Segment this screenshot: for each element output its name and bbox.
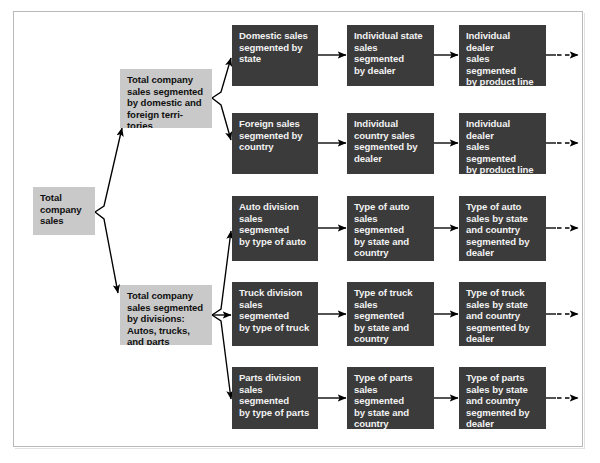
node-label-line: and country	[466, 224, 540, 236]
node-label-line: state	[239, 53, 312, 65]
node-label-line: Type of auto	[466, 201, 540, 213]
node-territories[interactable]: Total companysales segmentedby domestic …	[120, 69, 212, 128]
node-label-line: dealer	[466, 333, 540, 345]
node-label-line: Individual	[354, 118, 428, 130]
node-label-line: sales segmented	[239, 299, 312, 322]
node-label-line: by state and	[354, 407, 428, 419]
node-label: Type of trucksales by stateand countryse…	[466, 287, 540, 345]
node-label-line: by type of auto	[239, 236, 312, 248]
node-label-line: Type of truck	[466, 287, 540, 299]
node-label: Domestic salessegmented bystate	[239, 30, 312, 65]
node-label-line: sales segmented	[466, 141, 540, 164]
node-label-line: Total company	[127, 290, 206, 302]
node-label-line: and country	[466, 395, 540, 407]
node-label-line: segmented by	[466, 407, 540, 419]
node-label: Total companysales segmentedby divisions…	[127, 290, 206, 345]
node-label-line: Truck division	[239, 287, 312, 299]
node-label-line: dealer	[466, 247, 540, 259]
node-label-line: sales segmented	[354, 384, 428, 407]
node-label-line: country sales	[354, 130, 428, 142]
node-label: Individual statesales segmentedby dealer	[354, 30, 428, 76]
node-type-of-auto-sales-by-dealer[interactable]: Type of autosales by stateand countryseg…	[459, 196, 546, 261]
node-label-line: sales segmented	[466, 53, 540, 76]
node-individual-dealer-sales-by-product-line-domestic[interactable]: Individual dealersales segmentedby produ…	[459, 25, 546, 86]
node-label-line: Foreign sales	[239, 118, 312, 130]
node-label-line: Individual dealer	[466, 118, 540, 141]
node-individual-state-sales-by-dealer[interactable]: Individual statesales segmentedby dealer	[347, 25, 434, 86]
node-label-line: by type of truck	[239, 322, 312, 334]
node-label-line: Type of parts	[354, 372, 428, 384]
node-type-of-truck-sales-by-dealer[interactable]: Type of trucksales by stateand countryse…	[459, 282, 546, 346]
node-label: Totalcompanysales	[40, 192, 89, 227]
node-label-line: segmented by	[354, 141, 428, 153]
node-label: Type of trucksales segmentedby state and…	[354, 287, 428, 345]
node-label-line: sales segmented	[239, 213, 312, 236]
node-label-line: country	[354, 333, 428, 345]
node-divisions[interactable]: Total companysales segmentedby divisions…	[120, 285, 212, 345]
node-total-company-sales[interactable]: Totalcompanysales	[33, 187, 95, 235]
node-label: Type of partssales by stateand countryse…	[466, 372, 540, 429]
node-label-line: tories	[127, 120, 206, 128]
node-label-line: and country	[466, 310, 540, 322]
node-truck-division-sales-by-type[interactable]: Truck divisionsales segmentedby type of …	[232, 282, 318, 346]
node-label-line: sales segmented	[354, 42, 428, 65]
node-foreign-sales-by-country[interactable]: Foreign salessegmented bycountry	[232, 113, 318, 174]
node-label-line: by product line	[466, 76, 540, 86]
node-label: Individual dealersales segmentedby produ…	[466, 30, 540, 86]
node-label-line: Type of parts	[466, 372, 540, 384]
node-parts-division-sales-by-type[interactable]: Parts divisionsales segmentedby type of …	[232, 367, 318, 429]
node-label-line: Auto division	[239, 201, 312, 213]
node-label-line: Total company	[127, 74, 206, 86]
node-label-line: sales segmented	[239, 384, 312, 407]
node-label-line: country	[354, 247, 428, 259]
node-label: Auto divisionsales segmentedby type of a…	[239, 201, 312, 247]
node-label-line: by dealer	[354, 65, 428, 77]
node-label-line: foreign terri-	[127, 109, 206, 121]
node-label: Parts divisionsales segmentedby type of …	[239, 372, 312, 418]
node-label-line: segmented by	[466, 236, 540, 248]
node-label-line: by type of parts	[239, 407, 312, 419]
node-label-line: sales segmented	[127, 302, 206, 314]
node-label-line: by state and	[354, 236, 428, 248]
node-label-line: dealer	[354, 153, 428, 165]
node-label-line: Type of truck	[354, 287, 428, 299]
node-label-line: Domestic sales	[239, 30, 312, 42]
node-label-line: company	[40, 204, 89, 216]
node-label-line: by product line	[466, 164, 540, 174]
node-type-of-parts-sales-by-state-country[interactable]: Type of partssales segmentedby state and…	[347, 367, 434, 429]
node-label: Individualcountry salessegmented bydeale…	[354, 118, 428, 164]
node-label-line: and parts	[127, 336, 206, 345]
node-label-line: country	[354, 418, 428, 429]
node-label-line: segmented by	[239, 130, 312, 142]
node-label-line: Parts division	[239, 372, 312, 384]
node-label-line: Individual state	[354, 30, 428, 42]
node-label-line: sales by state	[466, 384, 540, 396]
node-label-line: by state and	[354, 322, 428, 334]
node-label-line: dealer	[466, 418, 540, 429]
node-label-line: by divisions:	[127, 313, 206, 325]
node-label-line: country	[239, 141, 312, 153]
node-label-line: sales by state	[466, 299, 540, 311]
node-label-line: by domestic and	[127, 97, 206, 109]
node-label-line: Autos, trucks,	[127, 325, 206, 337]
node-type-of-auto-sales-by-state-country[interactable]: Type of autosales segmentedby state andc…	[347, 196, 434, 261]
node-auto-division-sales-by-type[interactable]: Auto divisionsales segmentedby type of a…	[232, 196, 318, 261]
node-individual-country-sales-by-dealer[interactable]: Individualcountry salessegmented bydeale…	[347, 113, 434, 174]
node-label-line: segmented by	[466, 322, 540, 334]
node-label-line: sales segmented	[354, 299, 428, 322]
node-label-line: sales by state	[466, 213, 540, 225]
node-label: Type of autosales by stateand countryseg…	[466, 201, 540, 259]
node-label-line: sales segmented	[127, 86, 206, 98]
node-domestic-sales-by-state[interactable]: Domestic salessegmented bystate	[232, 25, 318, 86]
node-label-line: sales segmented	[354, 213, 428, 236]
node-label-line: Individual dealer	[466, 30, 540, 53]
node-type-of-truck-sales-by-state-country[interactable]: Type of trucksales segmentedby state and…	[347, 282, 434, 346]
node-label: Foreign salessegmented bycountry	[239, 118, 312, 153]
node-label: Truck divisionsales segmentedby type of …	[239, 287, 312, 333]
node-type-of-parts-sales-by-dealer[interactable]: Type of partssales by stateand countryse…	[459, 367, 546, 429]
node-label-line: sales	[40, 215, 89, 227]
diagram-canvas: Totalcompanysales Total companysales seg…	[0, 0, 600, 463]
node-individual-dealer-sales-by-product-line-foreign[interactable]: Individual dealersales segmentedby produ…	[459, 113, 546, 174]
node-label: Total companysales segmentedby domestic …	[127, 74, 206, 128]
node-label: Type of autosales segmentedby state andc…	[354, 201, 428, 259]
